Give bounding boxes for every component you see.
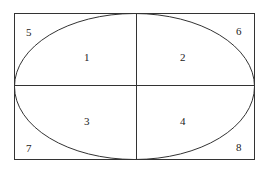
inscribed-ellipse (15, 14, 255, 160)
region-label-2: 2 (180, 52, 186, 63)
region-label-4: 4 (180, 116, 186, 127)
region-label-8: 8 (236, 142, 242, 153)
quadrant-ellipse-diagram (0, 0, 266, 170)
outer-rectangle (15, 14, 255, 160)
region-label-3: 3 (84, 116, 90, 127)
region-label-7: 7 (26, 143, 32, 154)
region-label-6: 6 (236, 26, 242, 37)
region-label-5: 5 (26, 27, 32, 38)
region-label-1: 1 (84, 52, 90, 63)
